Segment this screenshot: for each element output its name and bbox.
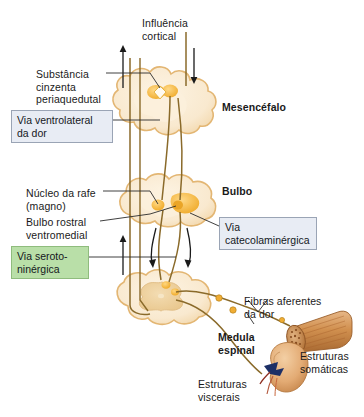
nucleus-raphe-magnus <box>152 200 165 211</box>
label-nucleo-da-rafe-magno: Núcleo da rafe (magno) <box>26 187 96 212</box>
label-bulbo: Bulbo <box>222 185 252 198</box>
figure-canvas: Influência cortical Substância cinzenta … <box>0 0 364 417</box>
midbrain-structure <box>113 67 216 135</box>
label-bulbo-rostral-ventromedial: Bulbo rostral ventromedial <box>26 216 87 241</box>
label-estruturas-viscerais: Estruturas viscerais <box>198 378 247 403</box>
medulla-structure <box>120 174 216 227</box>
label-fibras-aferentes-da-dor: Fibras aferentes da dor <box>244 295 321 320</box>
label-mesencefalo: Mesencéfalo <box>222 101 286 114</box>
label-substancia-cinzenta-periaquedutal: Substância cinzenta periaquedutal <box>36 68 101 106</box>
arrow-catecholaminergic-descending <box>187 228 191 264</box>
label-estruturas-somaticas: Estruturas somáticas <box>300 350 349 375</box>
label-medula-espinal: Medula espinal <box>218 331 255 356</box>
label-influencia-cortical: Influência cortical <box>142 17 188 42</box>
callout-via-serotoninergica: Via seroto- ninérgica <box>11 246 89 279</box>
callout-via-catecolaminergica: Via catecolaminérgica <box>219 217 317 250</box>
spinal-cord-structure <box>117 270 210 325</box>
arrow-serotonergic-descending <box>151 228 156 264</box>
callout-via-ventrolateral-da-dor: Via ventrolateral da dor <box>11 110 113 143</box>
